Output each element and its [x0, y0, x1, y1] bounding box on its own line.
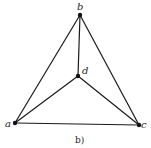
- label-d: d: [82, 65, 88, 76]
- node-a: [13, 121, 17, 125]
- label-a: a: [5, 118, 11, 129]
- edges: [15, 15, 139, 125]
- caption: b): [75, 135, 84, 145]
- edge-b-c: [80, 15, 139, 125]
- node-b: [78, 13, 82, 17]
- graph-diagram: a b c d b): [0, 0, 151, 148]
- edge-b-d: [78, 15, 80, 76]
- edge-a-d: [15, 76, 78, 123]
- label-b: b: [77, 1, 83, 12]
- edge-a-c: [15, 123, 139, 125]
- edge-a-b: [15, 15, 80, 123]
- edge-c-d: [78, 76, 139, 125]
- label-c: c: [141, 119, 147, 130]
- node-d: [76, 74, 80, 78]
